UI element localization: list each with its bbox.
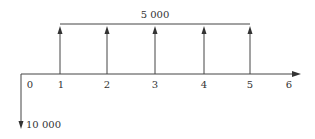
arrow-up-icon <box>248 26 253 34</box>
inflow-arrow-1 <box>58 26 63 74</box>
arrow-up-icon <box>202 26 207 34</box>
inflow-amount-label: 5 000 <box>141 9 170 20</box>
inflow-arrow-5 <box>248 26 253 74</box>
period-label-3: 3 <box>152 79 158 90</box>
period-label-5: 5 <box>247 79 253 90</box>
outflow-arrow-0 <box>19 74 24 129</box>
arrow-up-icon <box>105 26 110 34</box>
period-label-4: 4 <box>201 79 207 90</box>
period-label-1: 1 <box>58 79 64 90</box>
axis-arrowhead-icon <box>292 71 301 77</box>
arrow-up-icon <box>153 26 158 34</box>
period-label-0: 0 <box>27 79 33 90</box>
arrow-up-icon <box>58 26 63 34</box>
inflow-arrow-3 <box>153 26 158 74</box>
inflow-arrow-2 <box>105 26 110 74</box>
cash-flow-diagram: 0 1 2 3 4 5 6 5 000 10 000 <box>0 0 315 139</box>
arrow-down-icon <box>19 121 24 129</box>
inflow-arrow-4 <box>202 26 207 74</box>
period-label-6: 6 <box>286 79 292 90</box>
outflow-amount-label: 10 000 <box>26 119 61 130</box>
period-label-2: 2 <box>104 79 110 90</box>
